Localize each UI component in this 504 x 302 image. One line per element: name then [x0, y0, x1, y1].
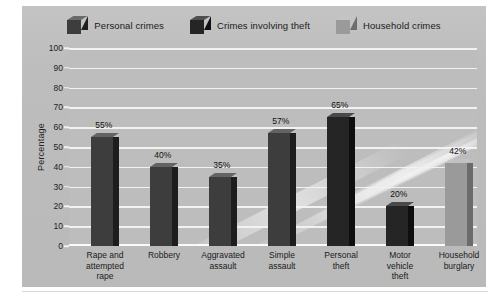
y-axis-title-text: Percentage [36, 123, 46, 171]
bottom-divider [22, 291, 488, 292]
chart-legend: Personal crimes Crimes involving theft H… [22, 12, 486, 38]
bar-aggravated-assault[interactable]: 35% [209, 177, 231, 246]
y-tick-label: 10 [54, 221, 63, 231]
bar-rape-and-attempted-rape[interactable]: 55% [91, 137, 113, 246]
x-label-line: attempted [74, 261, 136, 272]
y-tick-label: 0 [58, 241, 63, 251]
y-tick-mark [64, 245, 69, 247]
bar-personal-theft[interactable]: 65% [327, 117, 349, 246]
y-tick-label: 20 [54, 201, 63, 211]
x-label-line: Personal [310, 250, 372, 261]
legend-label: Crimes involving theft [217, 20, 310, 31]
y-tick-mark [64, 47, 69, 49]
y-tick-mark [64, 67, 69, 69]
y-tick-mark [64, 206, 69, 208]
y-tick-label: 100 [49, 43, 63, 53]
cube-icon [190, 16, 211, 34]
x-label-line: rape [74, 271, 136, 282]
y-tick-mark [64, 126, 69, 128]
legend-item-personal-crimes[interactable]: Personal crimes [67, 16, 164, 34]
bar-simple-assault[interactable]: 57% [268, 133, 290, 246]
x-label-robbery: Robbery [133, 250, 195, 261]
x-label-line: assault [192, 261, 254, 272]
x-label-simple-assault: Simple assault [251, 250, 313, 271]
y-tick-mark [64, 186, 69, 188]
bar-value-label: 40% [154, 150, 171, 160]
x-label-line: Aggravated [192, 250, 254, 261]
x-label-line: assault [251, 261, 313, 272]
gridline [69, 48, 477, 50]
x-label-aggravated-assault: Aggravated assault [192, 250, 254, 271]
legend-label: Personal crimes [94, 20, 164, 31]
y-tick-label: 90 [54, 63, 63, 73]
x-label-line: burglary [426, 261, 486, 272]
y-tick-mark [64, 225, 69, 227]
y-tick-mark [64, 166, 69, 168]
x-label-line: Simple [251, 250, 313, 261]
y-tick-mark [64, 107, 69, 109]
bar-household-burglary[interactable]: 42% [445, 163, 467, 246]
plot-area: 100 90 80 70 60 50 40 30 20 10 0 [69, 48, 477, 246]
legend-label: Household crimes [363, 20, 441, 31]
legend-item-crimes-involving-theft[interactable]: Crimes involving theft [190, 16, 310, 34]
x-label-household-burglary: Household burglary [426, 250, 486, 271]
gridline [69, 68, 477, 70]
bar-value-label: 42% [449, 146, 466, 156]
cube-icon [67, 16, 88, 34]
bar-motor-vehicle-theft[interactable]: 20% [386, 206, 408, 246]
y-tick-label: 50 [54, 142, 63, 152]
x-label-line: vehicle [369, 261, 431, 272]
bar-value-label: 57% [272, 116, 289, 126]
cube-icon [336, 16, 357, 34]
y-tick-label: 30 [54, 182, 63, 192]
bar-robbery[interactable]: 40% [150, 167, 172, 246]
x-label-personal-theft: Personal theft [310, 250, 372, 271]
y-tick-label: 40 [54, 162, 63, 172]
bar-value-label: 35% [213, 160, 230, 170]
y-tick-label: 60 [54, 122, 63, 132]
x-label-line: Robbery [133, 250, 195, 261]
bar-value-label: 20% [390, 189, 407, 199]
y-tick-mark [64, 146, 69, 148]
y-tick-label: 70 [54, 102, 63, 112]
gridline [69, 88, 477, 90]
bar-chart-panel: Personal crimes Crimes involving theft H… [22, 6, 486, 287]
bar-value-label: 55% [95, 120, 112, 130]
x-label-line: theft [369, 271, 431, 282]
legend-item-household-crimes[interactable]: Household crimes [336, 16, 441, 34]
x-axis-labels: Rape and attempted rape Robbery Aggravat… [69, 250, 477, 287]
x-label-line: theft [310, 261, 372, 272]
x-label-motor-vehicle-theft: Motor vehicle theft [369, 250, 431, 282]
gridline [69, 107, 477, 109]
y-tick-label: 80 [54, 83, 63, 93]
y-axis-title: Percentage [34, 48, 48, 246]
x-label-line: Motor [369, 250, 431, 261]
x-label-line: Rape and [74, 250, 136, 261]
y-tick-mark [64, 87, 69, 89]
x-label-line: Household [426, 250, 486, 261]
x-label-rape-and-attempted-rape: Rape and attempted rape [74, 250, 136, 282]
bar-value-label: 65% [331, 100, 348, 110]
